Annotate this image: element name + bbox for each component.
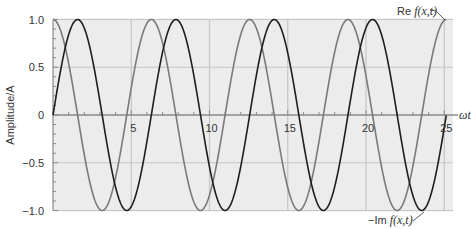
y-axis-title: Amplitude/A <box>4 85 16 145</box>
chart-svg: 1.00.50−0.5−1.0510152025 Amplitude/A ωt … <box>0 0 471 229</box>
x-tick-label: 15 <box>284 122 296 134</box>
x-axis-title: ωt <box>459 108 471 122</box>
y-tick-label: −1.0 <box>22 205 44 217</box>
annotation-re: Re f(x,t) <box>397 4 437 18</box>
y-tick-label: −0.5 <box>22 157 44 169</box>
x-tick-label: 10 <box>205 122 217 134</box>
y-tick-label: 1.0 <box>29 14 44 26</box>
x-tick-label: 25 <box>440 122 452 134</box>
x-tick-label: 5 <box>130 122 136 134</box>
y-tick-label: 0.5 <box>29 61 44 73</box>
x-tick-label: 20 <box>362 122 374 134</box>
y-tick-label: 0 <box>38 109 44 121</box>
annotation-im: −Im f(x,t) <box>368 213 413 227</box>
